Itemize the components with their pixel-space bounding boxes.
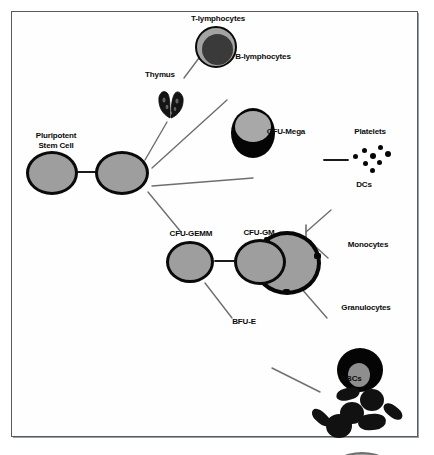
rbc-edge-on: [357, 413, 387, 432]
pluripotent-stem-cell-label: Pluripotent Stem Cell: [20, 131, 92, 150]
platelet-dot: [377, 160, 382, 165]
dcs-label: DCs: [347, 180, 381, 190]
thymus: [152, 84, 190, 122]
pluripotent-stem-cell-label-line1: Pluripotent: [36, 131, 77, 140]
rbc-edge-on: [335, 385, 361, 402]
platelet-dot: [370, 168, 375, 173]
platelet-dot: [353, 154, 358, 159]
platelet-dot: [363, 161, 368, 166]
cfu-gemm-cell: [166, 241, 214, 283]
platelet-dot: [385, 151, 391, 157]
cfu-gm-label: CFU-GM: [233, 228, 285, 238]
platelet-dot: [370, 153, 376, 159]
hematopoiesis-figure: Pluripotent Stem Cell Thymus T-lymphocyt…: [0, 0, 434, 455]
cfu-mega-bump-right: [314, 253, 321, 259]
pluripotent-stem-cell: [26, 151, 78, 195]
cfu-gemm-label: CFU-GEMM: [160, 229, 222, 239]
rbc-disc: [326, 414, 352, 438]
t-lymphocytes-cell: [195, 26, 237, 68]
platelet-dot: [378, 145, 383, 150]
platelets-cluster: [350, 141, 396, 177]
rbcs-cluster: [310, 386, 406, 440]
b-lymphocytes-label: B-lymphocytes: [225, 52, 301, 62]
thymus-label: Thymus: [137, 70, 183, 80]
pluripotent-stem-cell-label-line2: Stem Cell: [38, 141, 73, 150]
cfu-mega-label: CFU-Mega: [255, 127, 317, 137]
cfu-gm-cell: [234, 239, 286, 285]
platelet-dot: [362, 148, 367, 153]
thymus-icon: [152, 84, 190, 122]
bfu-e-label: BFU-E: [222, 317, 266, 327]
rbc-disc: [360, 389, 384, 411]
monocytes-label: Monocytes: [336, 240, 400, 250]
t-lymphocytes-label: T-lymphocytes: [180, 14, 256, 24]
rbcs-label: RBCs: [331, 374, 371, 384]
platelets-label: Platelets: [344, 127, 396, 137]
stem-cell-2: [95, 151, 149, 195]
cfu-mega-bump-bottom: [283, 289, 290, 294]
granulocytes-label: Granulocytes: [330, 303, 402, 313]
